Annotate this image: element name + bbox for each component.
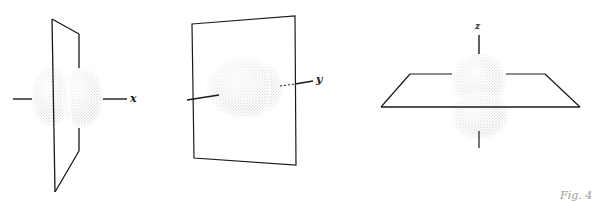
pz-orbital — [452, 54, 508, 139]
panel-px — [13, 19, 127, 192]
x-axis-label: x — [130, 93, 137, 104]
figure-caption: Fig. 4 — [560, 190, 592, 201]
panel-py — [187, 16, 313, 165]
panel-pz — [381, 35, 580, 148]
py-orbital — [207, 58, 283, 118]
y-axis-label: y — [316, 74, 322, 85]
px-orbital — [32, 68, 103, 128]
z-axis-label: z — [475, 22, 480, 31]
y-axis-back — [295, 81, 313, 84]
